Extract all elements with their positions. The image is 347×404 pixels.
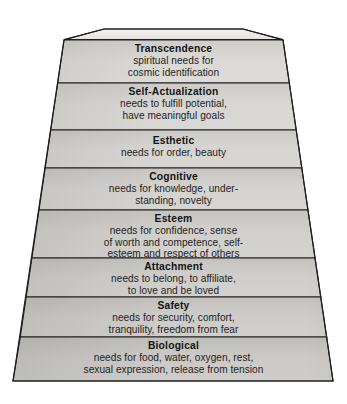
tier-attachment: Attachment needs to belong, to affiliate… (0, 261, 347, 296)
tier-esthetic-title: Esthetic (0, 135, 347, 147)
tier-safety-line-2: tranquility, freedom from fear (0, 324, 347, 336)
tier-esthetic: Esthetic needs for order, beauty (0, 135, 347, 159)
tier-attachment-title: Attachment (0, 261, 347, 273)
tier-cognitive-line-2: standing, novelty (0, 195, 347, 207)
tier-transcendence-line-1: spiritual needs for (0, 55, 347, 67)
tier-esteem-line-3: esteem and respect of others (0, 248, 347, 260)
tier-safety-title: Safety (0, 300, 347, 312)
tier-cognitive-title: Cognitive (0, 171, 347, 183)
tier-esteem: Esteem needs for confidence, sense of wo… (0, 213, 347, 260)
tier-attachment-line-1: needs to belong, to affiliate, (0, 273, 347, 285)
tier-cognitive: Cognitive needs for knowledge, under- st… (0, 171, 347, 206)
tier-attachment-line-2: to love and be loved (0, 285, 347, 297)
tier-self-actualization-line-2: have meaningful goals (0, 110, 347, 122)
tier-self-actualization-line-1: needs to fulfill potential, (0, 98, 347, 110)
tier-transcendence-line-2: cosmic identification (0, 67, 347, 79)
tier-text-layer: Transcendence spiritual needs for cosmic… (0, 0, 347, 404)
tier-biological: Biological needs for food, water, oxygen… (0, 340, 347, 375)
tier-self-actualization: Self-Actualization needs to fulfill pote… (0, 86, 347, 121)
hierarchy-of-needs-pyramid: Transcendence spiritual needs for cosmic… (0, 0, 347, 404)
tier-esteem-line-2: of worth and competence, self- (0, 237, 347, 249)
tier-esthetic-line-1: needs for order, beauty (0, 147, 347, 159)
tier-esteem-line-1: needs for confidence, sense (0, 225, 347, 237)
tier-transcendence-title: Transcendence (0, 43, 347, 55)
tier-esteem-title: Esteem (0, 213, 347, 225)
tier-transcendence: Transcendence spiritual needs for cosmic… (0, 43, 347, 78)
tier-safety: Safety needs for security, comfort, tran… (0, 300, 347, 335)
tier-self-actualization-title: Self-Actualization (0, 86, 347, 98)
tier-biological-title: Biological (0, 340, 347, 352)
tier-biological-line-2: sexual expression, release from tension (0, 364, 347, 376)
tier-safety-line-1: needs for security, comfort, (0, 312, 347, 324)
tier-cognitive-line-1: needs for knowledge, under- (0, 183, 347, 195)
tier-biological-line-1: needs for food, water, oxygen, rest, (0, 352, 347, 364)
